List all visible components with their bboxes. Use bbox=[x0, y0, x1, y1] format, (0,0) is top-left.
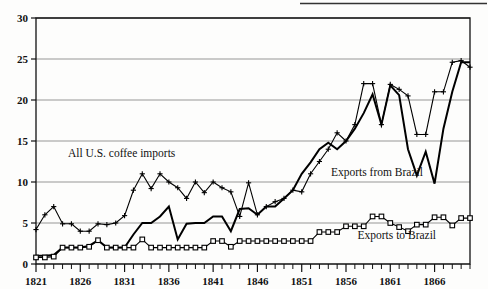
marker-square-exports-to-brazil-1837 bbox=[175, 245, 180, 250]
marker-square-exports-to-brazil-1857 bbox=[353, 224, 358, 229]
marker-square-exports-to-brazil-1826 bbox=[78, 245, 83, 250]
marker-plus-all-u-s-coffee-imports-1821 bbox=[33, 227, 38, 232]
marker-plus-all-u-s-coffee-imports-1867 bbox=[441, 89, 446, 94]
y-axis-label-0: 0 bbox=[23, 258, 29, 270]
x-axis-label-1826: 1826 bbox=[69, 275, 92, 287]
marker-square-exports-to-brazil-1842 bbox=[220, 239, 225, 244]
marker-square-exports-to-brazil-1828 bbox=[96, 238, 101, 243]
marker-square-exports-to-brazil-1861 bbox=[388, 221, 393, 226]
marker-square-exports-to-brazil-1848 bbox=[273, 239, 278, 244]
marker-plus-all-u-s-coffee-imports-1860 bbox=[379, 122, 384, 127]
x-axis-label-1841: 1841 bbox=[202, 275, 224, 287]
marker-square-exports-to-brazil-1830 bbox=[113, 245, 118, 250]
marker-square-exports-to-brazil-1824 bbox=[60, 245, 65, 250]
marker-square-exports-to-brazil-1849 bbox=[282, 239, 287, 244]
marker-square-exports-to-brazil-1832 bbox=[131, 245, 136, 250]
marker-square-exports-to-brazil-1855 bbox=[335, 230, 340, 235]
marker-plus-all-u-s-coffee-imports-1833 bbox=[140, 171, 145, 176]
marker-square-exports-to-brazil-1860 bbox=[379, 214, 384, 219]
x-axis-label-1866: 1866 bbox=[424, 275, 447, 287]
marker-plus-all-u-s-coffee-imports-1859 bbox=[370, 81, 375, 86]
marker-plus-all-u-s-coffee-imports-1864 bbox=[414, 132, 419, 137]
marker-square-exports-to-brazil-1827 bbox=[87, 244, 92, 249]
y-axis-labels: 051015202530 bbox=[17, 12, 29, 270]
marker-square-exports-to-brazil-1853 bbox=[317, 230, 322, 235]
marker-square-exports-to-brazil-1843 bbox=[229, 244, 234, 249]
marker-square-exports-to-brazil-1869 bbox=[459, 216, 464, 221]
chart-figure: 051015202530 182118261831183618411846185… bbox=[0, 0, 488, 289]
marker-square-exports-to-brazil-1836 bbox=[167, 245, 172, 250]
marker-plus-all-u-s-coffee-imports-1845 bbox=[246, 180, 251, 185]
x-axis-label-1851: 1851 bbox=[291, 275, 313, 287]
annotation-exports-to-brazil: Exports to Brazil bbox=[358, 229, 437, 242]
marker-plus-all-u-s-coffee-imports-1832 bbox=[131, 188, 136, 193]
x-axis-label-1836: 1836 bbox=[158, 275, 181, 287]
marker-square-exports-to-brazil-1854 bbox=[326, 230, 331, 235]
coffee-trade-line-chart: 051015202530 182118261831183618411846185… bbox=[0, 0, 488, 289]
marker-square-exports-to-brazil-1865 bbox=[423, 222, 428, 227]
marker-square-exports-to-brazil-1856 bbox=[344, 224, 349, 229]
marker-plus-all-u-s-coffee-imports-1865 bbox=[423, 132, 428, 137]
x-axis-ticks bbox=[36, 264, 470, 272]
marker-square-exports-to-brazil-1846 bbox=[255, 239, 260, 244]
marker-square-exports-to-brazil-1858 bbox=[361, 224, 366, 229]
y-axis-label-25: 25 bbox=[17, 53, 29, 65]
y-axis-label-30: 30 bbox=[17, 12, 29, 24]
y-axis-ticks bbox=[31, 18, 36, 264]
x-axis-label-1846: 1846 bbox=[246, 275, 269, 287]
y-axis-label-20: 20 bbox=[17, 94, 29, 106]
marker-square-exports-to-brazil-1829 bbox=[105, 245, 110, 250]
marker-square-exports-to-brazil-1839 bbox=[193, 245, 198, 250]
marker-square-exports-to-brazil-1845 bbox=[246, 239, 251, 244]
y-axis-label-5: 5 bbox=[23, 217, 29, 229]
marker-square-exports-to-brazil-1838 bbox=[184, 245, 189, 250]
marker-plus-all-u-s-coffee-imports-1843 bbox=[228, 189, 233, 194]
marker-plus-all-u-s-coffee-imports-1834 bbox=[149, 186, 154, 191]
marker-square-exports-to-brazil-1823 bbox=[51, 254, 56, 259]
marker-square-exports-to-brazil-1840 bbox=[202, 245, 207, 250]
marker-square-exports-to-brazil-1867 bbox=[441, 215, 446, 220]
marker-plus-all-u-s-coffee-imports-1824 bbox=[60, 221, 65, 226]
marker-square-exports-to-brazil-1847 bbox=[264, 239, 269, 244]
y-axis-label-15: 15 bbox=[17, 135, 29, 147]
marker-square-exports-to-brazil-1834 bbox=[149, 245, 154, 250]
marker-square-exports-to-brazil-1866 bbox=[432, 215, 437, 220]
marker-square-exports-to-brazil-1870 bbox=[468, 216, 473, 221]
marker-square-exports-to-brazil-1850 bbox=[291, 239, 296, 244]
y-axis-label-10: 10 bbox=[17, 176, 29, 188]
annotation-all-u-s-coffee-imports: All U.S. coffee imports bbox=[68, 147, 176, 160]
marker-square-exports-to-brazil-1864 bbox=[415, 222, 420, 227]
marker-square-exports-to-brazil-1833 bbox=[140, 237, 145, 242]
marker-square-exports-to-brazil-1835 bbox=[158, 245, 163, 250]
x-axis-label-1831: 1831 bbox=[114, 275, 136, 287]
gridlines bbox=[36, 18, 470, 223]
marker-square-exports-to-brazil-1821 bbox=[34, 255, 39, 260]
marker-square-exports-to-brazil-1825 bbox=[69, 245, 74, 250]
marker-square-exports-to-brazil-1822 bbox=[43, 255, 48, 260]
marker-plus-all-u-s-coffee-imports-1858 bbox=[361, 81, 366, 86]
marker-square-exports-to-brazil-1852 bbox=[308, 239, 313, 244]
marker-square-exports-to-brazil-1844 bbox=[237, 239, 242, 244]
x-axis-labels: 1821182618311836184118461851185618611866 bbox=[25, 275, 446, 287]
marker-plus-all-u-s-coffee-imports-1851 bbox=[299, 189, 304, 194]
x-axis-label-1856: 1856 bbox=[335, 275, 358, 287]
marker-square-exports-to-brazil-1859 bbox=[370, 214, 375, 219]
marker-square-exports-to-brazil-1851 bbox=[299, 239, 304, 244]
series-line-all-u-s-coffee-imports bbox=[36, 61, 470, 232]
x-axis-label-1861: 1861 bbox=[379, 275, 401, 287]
marker-plus-all-u-s-coffee-imports-1868 bbox=[450, 60, 455, 65]
marker-square-exports-to-brazil-1841 bbox=[211, 239, 216, 244]
marker-plus-all-u-s-coffee-imports-1848 bbox=[273, 199, 278, 204]
annotation-exports-from-brazil: Exports from Brazil bbox=[331, 166, 423, 179]
marker-square-exports-to-brazil-1868 bbox=[450, 223, 455, 228]
x-axis-label-1821: 1821 bbox=[25, 275, 47, 287]
marker-plus-all-u-s-coffee-imports-1866 bbox=[432, 89, 437, 94]
marker-square-exports-to-brazil-1831 bbox=[122, 245, 127, 250]
